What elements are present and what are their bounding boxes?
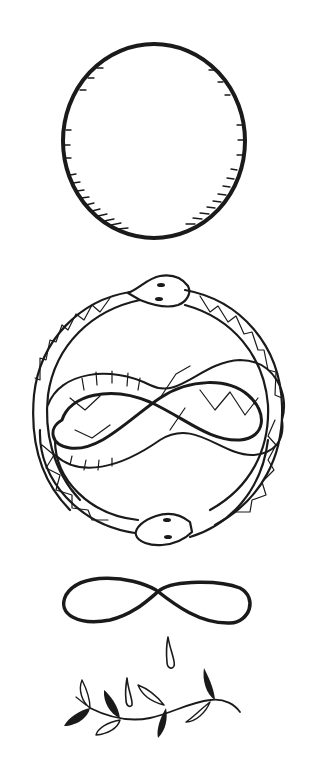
snake-head-bottom [136,514,192,545]
inner-infinity-body [48,360,284,470]
snake-head-top [128,275,189,306]
laurel-branch [64,668,240,738]
teardrops [126,637,175,706]
illustration-canvas: Hand-drawn black ink line art of symbols… [0,0,315,784]
ouroboros-symbol [33,275,284,545]
infinity-symbol [64,578,250,623]
circle-symbol [63,44,245,238]
